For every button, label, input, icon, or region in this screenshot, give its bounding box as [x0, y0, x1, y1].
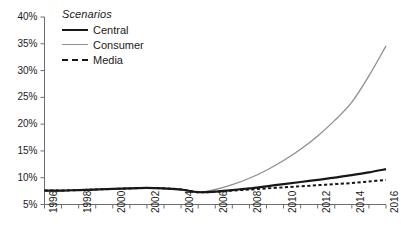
legend-label-consumer: Consumer: [88, 39, 144, 51]
legend-item-consumer[interactable]: Consumer: [62, 38, 192, 52]
x-axis-tick-label: 2012: [322, 190, 332, 212]
y-axis-tick-label: 30%: [17, 66, 37, 76]
x-axis-tick-label: 1996: [49, 190, 59, 212]
x-axis-tick-label: 2006: [219, 190, 229, 212]
y-axis-tick-label: 40%: [17, 12, 37, 22]
y-axis-tick-label: 25%: [17, 92, 37, 102]
chart-legend: Scenarios Central Consumer Media: [62, 8, 192, 67]
plot-area: [0, 0, 401, 251]
y-axis-tick-label: 10%: [17, 173, 37, 183]
y-axis-tick-label: 15%: [17, 146, 37, 156]
legend-swatch-consumer-icon: [62, 39, 88, 51]
legend-item-central[interactable]: Central: [62, 23, 192, 37]
series-line-consumer: [45, 46, 387, 192]
series-line-central: [45, 169, 387, 192]
y-axis-tick-label: 35%: [17, 39, 37, 49]
x-axis-tick-label: 2010: [288, 190, 298, 212]
x-axis-tick-label: 2000: [117, 190, 127, 212]
x-axis-ticks: [45, 205, 387, 209]
line-chart: 40%35%30%25%20%15%10%5% 1996199820002002…: [0, 0, 401, 251]
x-axis-tick-label: 2016: [390, 190, 400, 212]
legend-swatch-media-icon: [62, 54, 88, 66]
legend-label-media: Media: [88, 54, 123, 66]
x-axis-tick-label: 1998: [83, 190, 93, 212]
y-axis-tick-label: 20%: [17, 119, 37, 129]
y-axis-tick-label: 5%: [23, 200, 37, 210]
x-axis-tick-label: 2002: [151, 190, 161, 212]
y-axis-ticks: [41, 17, 45, 205]
legend-item-media[interactable]: Media: [62, 53, 192, 67]
legend-swatch-central-icon: [62, 24, 88, 36]
x-axis-tick-label: 2004: [185, 190, 195, 212]
legend-title: Scenarios: [62, 8, 192, 21]
x-axis-tick-label: 2008: [253, 190, 263, 212]
data-series-group: [45, 46, 387, 192]
legend-label-central: Central: [88, 24, 128, 36]
x-axis-tick-label: 2014: [356, 190, 366, 212]
